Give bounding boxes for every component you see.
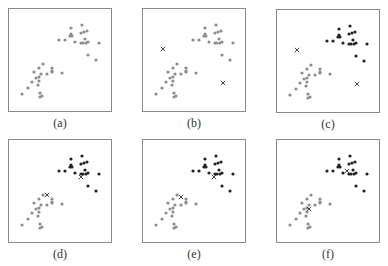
- data-point: [353, 30, 356, 33]
- panel-b: [142, 8, 246, 112]
- data-point: [37, 210, 40, 213]
- data-point: [30, 80, 33, 83]
- centroid-x-icon: [212, 175, 216, 179]
- data-point: [219, 160, 222, 163]
- data-point: [337, 157, 340, 160]
- data-point: [306, 226, 309, 229]
- data-point: [26, 86, 29, 89]
- data-point: [203, 26, 206, 29]
- data-point: [197, 169, 200, 172]
- data-point: [328, 202, 331, 205]
- data-point: [36, 214, 39, 217]
- data-point: [305, 76, 308, 79]
- data-point: [37, 79, 40, 82]
- data-point: [170, 83, 173, 86]
- data-point: [63, 169, 66, 172]
- data-point: [305, 197, 308, 200]
- centroid-x-icon: [345, 169, 349, 173]
- data-point: [294, 87, 297, 90]
- data-point: [86, 53, 89, 56]
- data-point: [197, 38, 200, 41]
- data-point: [34, 76, 37, 79]
- data-point: [347, 32, 350, 35]
- data-point: [81, 41, 84, 44]
- caption-e: (e): [142, 247, 246, 262]
- data-point: [80, 23, 83, 26]
- data-point: [362, 189, 365, 192]
- data-point: [216, 30, 219, 33]
- data-point: [207, 171, 210, 174]
- data-point: [318, 200, 321, 203]
- data-point: [202, 165, 205, 168]
- data-point: [325, 39, 328, 42]
- data-point: [351, 168, 354, 171]
- data-point: [351, 38, 354, 41]
- data-point: [20, 92, 23, 95]
- data-point: [354, 41, 357, 44]
- data-point: [305, 67, 308, 70]
- data-point: [354, 54, 357, 57]
- data-point: [73, 171, 76, 174]
- data-point: [194, 71, 197, 74]
- centroid-x-icon: [179, 195, 183, 199]
- data-point: [220, 171, 223, 174]
- data-point: [86, 40, 89, 43]
- data-point: [171, 206, 174, 209]
- data-point: [347, 162, 350, 165]
- centroid-x-icon: [355, 82, 359, 86]
- data-point: [325, 169, 328, 172]
- data-point: [57, 169, 60, 172]
- data-point: [349, 42, 352, 45]
- data-point: [304, 84, 307, 87]
- data-point: [184, 69, 187, 72]
- scatter-plot-a: [9, 9, 111, 111]
- data-point: [306, 96, 309, 99]
- data-point: [57, 38, 60, 41]
- data-point: [217, 168, 220, 171]
- data-point: [166, 70, 169, 73]
- caption-d: (d): [8, 247, 112, 262]
- data-point: [365, 42, 368, 45]
- data-point: [184, 66, 187, 69]
- data-point: [350, 161, 353, 164]
- caption-b: (b): [142, 116, 246, 131]
- data-point: [207, 40, 210, 43]
- caption-a: (a): [8, 116, 112, 131]
- data-point: [179, 203, 182, 206]
- data-point: [60, 202, 63, 205]
- data-point: [30, 211, 33, 214]
- data-point: [175, 193, 178, 196]
- data-point: [39, 203, 42, 206]
- data-point: [220, 40, 223, 43]
- data-point: [215, 41, 218, 44]
- data-point: [164, 211, 167, 214]
- data-point: [37, 75, 40, 78]
- data-point: [305, 80, 308, 83]
- data-point: [191, 38, 194, 41]
- data-point: [50, 197, 53, 200]
- panel-c: [276, 9, 380, 113]
- data-point: [228, 58, 231, 61]
- scatter-plot-b: [143, 9, 245, 111]
- data-point: [184, 197, 187, 200]
- data-point: [313, 203, 316, 206]
- data-point: [26, 217, 29, 220]
- data-point: [172, 95, 175, 98]
- data-point: [191, 169, 194, 172]
- data-point: [306, 92, 309, 95]
- data-point: [219, 29, 222, 32]
- data-point: [302, 77, 305, 80]
- data-point: [170, 214, 173, 217]
- data-point: [50, 200, 53, 203]
- data-point: [172, 222, 175, 225]
- data-point: [175, 62, 178, 65]
- data-point: [63, 38, 66, 41]
- centroid-x-icon: [295, 48, 299, 52]
- data-point: [213, 162, 216, 165]
- data-point: [171, 210, 174, 213]
- data-point: [341, 41, 344, 44]
- data-point: [164, 80, 167, 83]
- data-point: [38, 222, 41, 225]
- data-point: [171, 197, 174, 200]
- data-point: [349, 172, 352, 175]
